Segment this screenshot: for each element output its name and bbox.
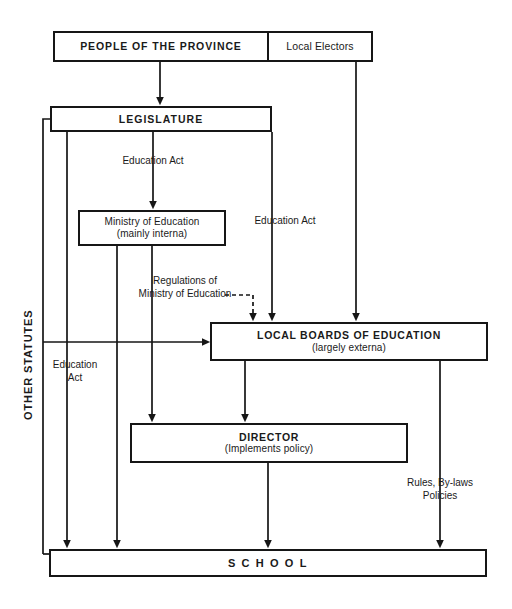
box-legislature-label: LEGISLATURE: [119, 113, 203, 125]
box-ministry-label-line1: Ministry of Education: [105, 216, 200, 228]
box-director[interactable]: DIRECTOR (Implements policy): [130, 423, 408, 463]
label-rules-bylaws-policies: Rules, By-laws Policies: [385, 477, 495, 502]
edge-other-statutes-spine: [43, 119, 50, 554]
box-people-label: PEOPLE OF THE PROVINCE: [80, 40, 242, 52]
label-education-act-boards: Education Act: [225, 215, 345, 228]
label-education-act-ministry: Education Act: [93, 155, 213, 168]
label-education-act-school: Education Act: [35, 359, 115, 384]
box-school[interactable]: S C H O O L: [49, 549, 487, 577]
connector-layer: [0, 0, 512, 609]
diagram-canvas: PEOPLE OF THE PROVINCE Local Electors LE…: [0, 0, 512, 609]
label-regulations-of-ministry: Regulations of Ministry of Education: [100, 275, 270, 300]
box-director-label-line2: (Implements policy): [225, 443, 314, 455]
box-local-electors[interactable]: Local Electors: [269, 33, 371, 60]
box-ministry-label-line2: (mainly interna): [117, 228, 188, 240]
box-people-of-the-province[interactable]: PEOPLE OF THE PROVINCE: [55, 33, 267, 60]
box-electors-label: Local Electors: [286, 40, 353, 53]
box-local-boards-of-education[interactable]: LOCAL BOARDS OF EDUCATION (largely exter…: [210, 322, 488, 361]
box-local-boards-label-line1: LOCAL BOARDS OF EDUCATION: [257, 329, 441, 341]
box-legislature[interactable]: LEGISLATURE: [50, 106, 272, 132]
box-people-and-electors: PEOPLE OF THE PROVINCE Local Electors: [53, 31, 373, 62]
label-other-statutes: OTHER STATUTES: [22, 309, 34, 420]
box-director-label-line1: DIRECTOR: [239, 431, 299, 443]
box-local-boards-label-line2: (largely externa): [312, 342, 386, 354]
box-ministry-of-education[interactable]: Ministry of Education (mainly interna): [78, 210, 226, 246]
box-school-label: S C H O O L: [228, 557, 308, 570]
